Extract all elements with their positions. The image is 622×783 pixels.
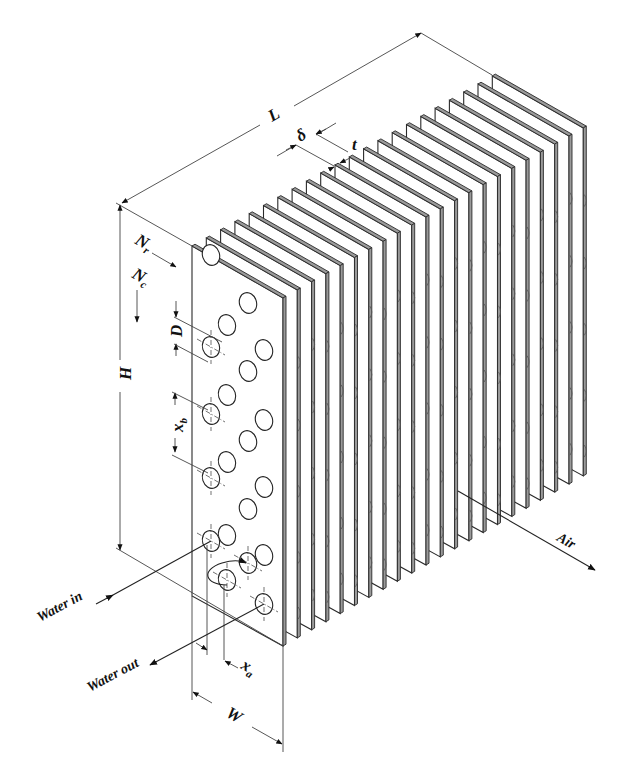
t-arrow-left: [330, 167, 334, 169]
label-l: L: [264, 104, 283, 126]
label-w: W: [223, 703, 247, 728]
fin-front: [192, 244, 286, 646]
water-out-arrow: [150, 657, 165, 665]
label-h: H: [116, 366, 135, 381]
l-extension-back: [421, 33, 492, 75]
delta-arrow-right: [316, 129, 326, 134]
label-delta: δ: [293, 125, 310, 146]
label-xa: xa: [236, 655, 260, 681]
w-arrow-left: [193, 692, 212, 703]
label-xb: xb: [168, 418, 189, 434]
xa-arrow-right: [225, 661, 238, 668]
h-extension-top: [116, 203, 192, 246]
l-dimension-lower: [122, 125, 260, 203]
w-arrow-right: [252, 727, 282, 744]
label-water-out: Water out: [84, 655, 142, 695]
label-nc: Nc: [127, 264, 153, 291]
label-d: D: [167, 325, 186, 338]
water-out-line: [165, 604, 264, 657]
front-plate: [192, 244, 286, 646]
delta-arrow-left: [286, 145, 296, 150]
l-dimension-upper: [294, 33, 421, 106]
water-in-arrow: [96, 595, 113, 604]
xa-arrow-left: [196, 643, 207, 650]
delta-guide-2: [316, 134, 348, 152]
label-t: t: [352, 135, 358, 154]
heat-exchanger-diagram: L δ t H Nr Nc D xb xa W Water in Water o…: [0, 0, 622, 783]
t-arrow-right: [340, 158, 350, 163]
nr-arrow: [152, 253, 176, 267]
label-nr: Nr: [130, 230, 156, 257]
label-water-in: Water in: [34, 588, 85, 624]
delta-guide-1: [296, 145, 334, 166]
